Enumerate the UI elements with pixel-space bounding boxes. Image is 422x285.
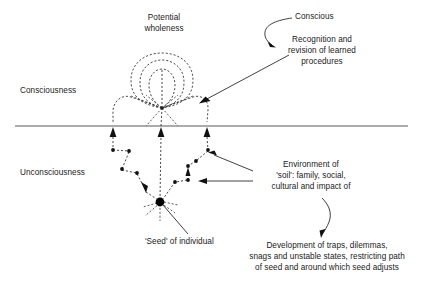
environment-to-root-upper-arrow	[208, 151, 253, 172]
label-development: Development of traps, dilemmas, snags an…	[237, 240, 417, 274]
root-left-node-2	[127, 149, 131, 153]
root-left-segment-f	[146, 192, 158, 200]
root-left-node-4	[135, 171, 139, 175]
root-right-segment-b	[197, 151, 208, 160]
stem-above-surface	[161, 108, 162, 126]
root-left-node-3	[120, 167, 124, 171]
seed-label-leader	[163, 205, 188, 234]
development-arrow-head	[320, 229, 326, 238]
fan-ray-down-left	[146, 108, 162, 126]
environment-mid-arrow-head	[198, 178, 207, 184]
root-path-right	[163, 137, 210, 199]
root-right-node-3	[186, 164, 190, 168]
seed-ray-left	[143, 203, 157, 207]
diagram-canvas: Potential wholeness Conscious Recognitio…	[0, 0, 422, 285]
root-left-arrowhead	[141, 182, 148, 193]
root-left-segment-b	[113, 150, 129, 151]
label-recognition: Recognition and revision of learned proc…	[272, 34, 372, 68]
label-consciousness: Consciousness	[20, 85, 110, 96]
surface-arrowhead-right	[204, 127, 211, 137]
root-right-node-2	[194, 159, 198, 163]
root-right-arrowhead	[186, 167, 191, 176]
root-left-segment-d	[122, 170, 137, 173]
label-seed: 'Seed' of individual	[145, 236, 245, 247]
environment-to-root-mid-arrow	[198, 178, 253, 184]
environment-upper-arrow-shaft	[214, 155, 253, 171]
surface-emergence-arrows	[110, 127, 211, 137]
surface-arrowhead-center	[158, 127, 165, 137]
canopy-branch-left	[113, 96, 162, 122]
environment-to-development-arrow	[320, 198, 331, 238]
root-right-segment-e	[176, 180, 187, 182]
fan-ray-down-right	[162, 108, 178, 126]
root-right-node-5	[173, 180, 177, 184]
label-potential-wholeness: Potential wholeness	[131, 12, 197, 34]
surface-arrowhead-left	[110, 127, 117, 137]
canopy-branch-right	[162, 96, 208, 122]
development-arrow-curve	[322, 198, 330, 233]
label-unconsciousness: Unconsciousness	[20, 167, 120, 178]
root-right-node-1	[206, 148, 210, 152]
root-left-segment-c	[122, 152, 129, 169]
seed-ray-right	[164, 202, 178, 205]
root-right-segment-f	[163, 182, 175, 199]
root-right-node-4	[186, 178, 190, 182]
seed-rays	[143, 198, 178, 221]
root-right-segment-a	[207, 137, 208, 150]
stem-below-surface	[160, 136, 161, 200]
label-environment: Environment of 'soil': family, social, c…	[255, 159, 367, 193]
label-conscious: Conscious	[295, 11, 365, 22]
root-left-node-1	[111, 148, 115, 152]
